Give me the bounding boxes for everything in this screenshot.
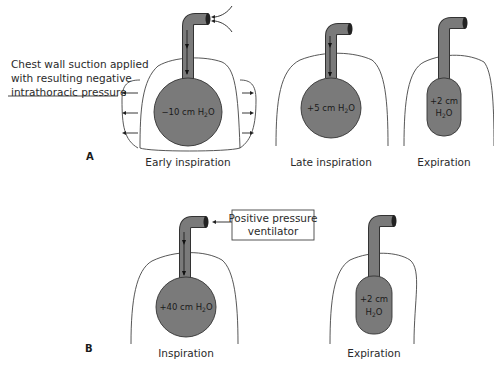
outward-arrows-right — [242, 91, 254, 135]
stage-caption: Early inspiration — [145, 156, 230, 168]
pressure-label: +5 cm H2O — [307, 103, 355, 114]
lung — [356, 276, 392, 334]
stage-caption: Expiration — [347, 347, 400, 359]
annotation-line-1: Chest wall suction applied — [11, 58, 149, 70]
ventilator-line-2: ventilator — [248, 225, 299, 237]
pressure-label-line-1: +2 cm — [360, 294, 388, 304]
stage-late-inspiration: +5 cm H2O Late inspiration — [276, 23, 388, 168]
tube-opening — [392, 215, 397, 227]
stage-caption: Inspiration — [158, 347, 214, 359]
lung — [427, 78, 461, 136]
stage-inspiration-b: +40 cm H2O Inspiration — [131, 216, 238, 359]
tube-opening — [463, 17, 468, 29]
right-suction-cup — [240, 80, 256, 148]
ventilator-line-1: Positive pressure — [228, 212, 317, 224]
panel-a: A Chest wall suction applied with result… — [8, 6, 494, 168]
suction-annotation: Chest wall suction applied with resultin… — [8, 58, 149, 98]
stage-expiration-b: +2 cm H2O Expiration — [330, 215, 417, 359]
tube-opening — [348, 23, 353, 35]
ventilation-pressure-diagram: A Chest wall suction applied with result… — [0, 0, 494, 370]
stage-expiration-a: +2 cm H2O Expiration — [404, 17, 494, 168]
stage-caption: Expiration — [417, 156, 470, 168]
stage-early-inspiration: −10 cm H2O Early inspiration — [122, 6, 256, 168]
panel-b: B +40 cm H2O Inspiration Positive pressu… — [85, 210, 417, 359]
panel-a-label: A — [86, 151, 94, 162]
tube-opening — [204, 216, 209, 228]
stage-caption: Late inspiration — [290, 156, 372, 168]
pressure-label-line-1: +2 cm — [430, 96, 458, 106]
panel-b-label: B — [85, 343, 93, 354]
ventilator-box: Positive pressure ventilator — [228, 210, 317, 240]
annotation-line-2: with resulting negative — [11, 72, 132, 84]
tube-opening — [206, 13, 211, 25]
